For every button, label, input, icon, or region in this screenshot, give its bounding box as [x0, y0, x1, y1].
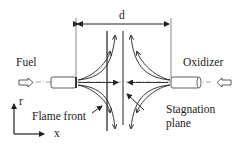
oxidizer-label: Oxidizer: [183, 57, 223, 69]
fuel-label: Fuel: [16, 57, 36, 69]
distance-label: d: [119, 10, 125, 22]
counterflow-diagram: [0, 0, 245, 149]
axis-x-label: x: [54, 128, 60, 140]
stagnation-label-line2: plane: [166, 118, 191, 130]
oxidizer-nozzle: [171, 77, 201, 88]
oxidizer-inflow-arrow: [217, 78, 231, 87]
axis-r-label: r: [19, 96, 23, 108]
stagnation-label-line1: Stagnation: [166, 104, 215, 116]
fuel-inflow-arrow: [19, 78, 33, 87]
flame-front-leader: [92, 106, 102, 113]
fuel-nozzle: [51, 77, 76, 88]
flame-front-label: Flame front: [32, 111, 86, 123]
